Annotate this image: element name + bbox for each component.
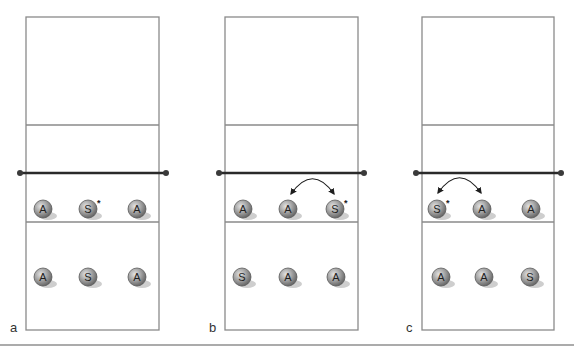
attacker-player: A (473, 200, 496, 220)
player-role-label: A (239, 203, 247, 215)
player-role-label: S (238, 271, 245, 283)
attacker-player: A (128, 268, 151, 288)
player-role-label: S (433, 203, 440, 215)
net-post-right (558, 170, 564, 176)
attacker-player: A (432, 268, 455, 288)
player-role-label: A (478, 203, 486, 215)
attacker-player: A (522, 200, 545, 220)
setter-player: S (521, 268, 544, 288)
player-role-label: A (133, 203, 141, 215)
player-role-label: A (437, 271, 445, 283)
player-role-label: A (284, 203, 292, 215)
attacker-player: A (128, 200, 151, 220)
attacker-player: A (327, 268, 350, 288)
player-role-label: S (84, 271, 91, 283)
net-post-right (163, 170, 169, 176)
panel-label: a (10, 320, 18, 335)
player-role-label: S (331, 203, 338, 215)
player-role-label: A (480, 271, 488, 283)
attacker-player: A (234, 200, 257, 220)
attacker-player: A (279, 200, 302, 220)
net-post-right (361, 170, 367, 176)
player-role-label: S (526, 271, 533, 283)
attacker-player: A (34, 200, 57, 220)
setter-player: S (233, 268, 256, 288)
attacker-player: A (34, 268, 57, 288)
player-role-label: A (284, 271, 292, 283)
swap-arrow-icon (291, 179, 334, 194)
player-role-label: S (84, 203, 91, 215)
panel-label: c (406, 320, 413, 335)
volleyball-rotation-diagram: AS*AASAaAAS*SAAbS*AAAASc (0, 0, 574, 351)
setter-player: S (79, 268, 102, 288)
court-panel-a: AS*AASAa (10, 17, 169, 335)
player-role-label: A (332, 271, 340, 283)
court-panel-b: AAS*SAAb (209, 17, 367, 335)
active-setter-star: * (97, 198, 101, 208)
court-panel-c: S*AAAASc (406, 17, 564, 335)
player-role-label: A (133, 271, 141, 283)
attacker-player: A (279, 268, 302, 288)
setter-player: S* (326, 198, 349, 220)
active-setter-star: * (446, 198, 450, 208)
net-post-left (17, 170, 23, 176)
setter-player: S* (79, 198, 102, 220)
net-post-left (413, 170, 419, 176)
player-role-label: A (39, 203, 47, 215)
net-post-left (216, 170, 222, 176)
active-setter-star: * (344, 198, 348, 208)
panel-label: b (209, 320, 216, 335)
player-role-label: A (39, 271, 47, 283)
player-role-label: A (527, 203, 535, 215)
setter-player: S* (428, 198, 451, 220)
attacker-player: A (475, 268, 498, 288)
swap-arrow-icon (438, 178, 481, 193)
